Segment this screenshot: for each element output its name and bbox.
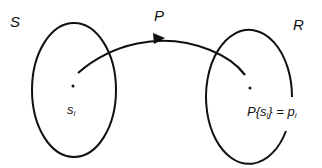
- point-si: [72, 85, 75, 88]
- eq-mid: } = p: [268, 104, 294, 119]
- arrow-head-icon: [153, 33, 165, 44]
- element-si-label: si: [67, 102, 75, 118]
- set-s-ellipse: [32, 23, 116, 157]
- set-r-label: R: [293, 16, 304, 33]
- set-s-label: S: [10, 13, 20, 30]
- set-r-ellipse: [206, 30, 292, 164]
- probability-equation: P{si} = pi: [247, 104, 296, 120]
- mapping-label: P: [154, 7, 164, 24]
- diagram-canvas: [0, 0, 322, 168]
- mapping-diagram: S P R si P{si} = pi: [0, 0, 322, 168]
- point-pi: [249, 87, 252, 90]
- eq-prefix: P{s: [247, 104, 267, 119]
- si-subscript: i: [74, 109, 76, 118]
- eq-sub2: i: [295, 111, 297, 120]
